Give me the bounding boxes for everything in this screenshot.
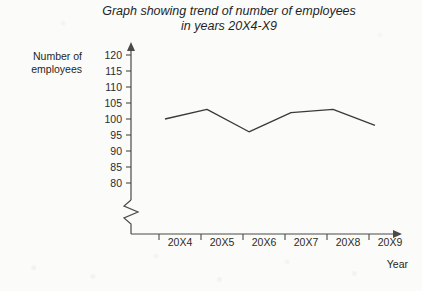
plot-area bbox=[0, 0, 422, 291]
y-axis-ticks bbox=[126, 55, 131, 183]
x-axis-ticks bbox=[159, 234, 369, 240]
data-series-line-employees bbox=[165, 109, 375, 131]
y-axis-break-icon bbox=[124, 200, 138, 234]
x-axis-arrow-icon bbox=[393, 230, 402, 238]
y-axis-arrow-icon bbox=[127, 42, 135, 51]
